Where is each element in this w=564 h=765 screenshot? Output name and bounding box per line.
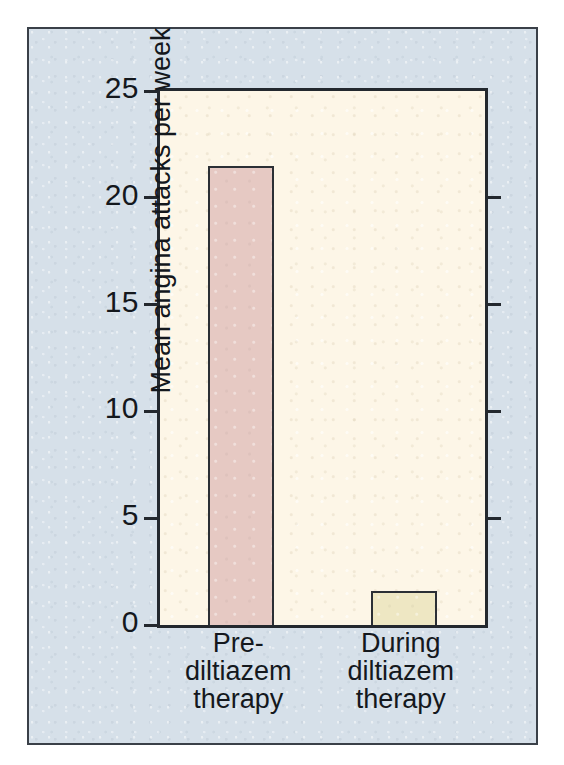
y-axis-tick-right-10 [488,410,501,413]
bar-texture [373,593,435,625]
y-tick-label-15: 15 [105,285,139,319]
bar-0 [208,166,274,625]
plot-area [157,88,488,628]
y-tick-label-10: 10 [105,391,139,425]
x-category-label-1: Duringdiltiazemtherapy [300,629,503,713]
x-category-label-line: diltiazem [300,657,503,685]
bar-texture [210,168,272,625]
figure-panel: Mean angina attacks per week 0510152025 … [27,27,538,745]
x-category-label-line: During [300,629,503,657]
y-axis-tick-labels: 0510152025 [91,88,139,622]
y-axis-tick-left-0 [144,624,157,627]
y-axis-tick-right-5 [488,517,501,520]
y-tick-label-20: 20 [105,178,139,212]
y-tick-label-25: 25 [105,71,139,105]
y-axis-tick-left-5 [144,517,157,520]
y-axis-title: Mean angina attacks per week [146,1,177,421]
y-axis-tick-right-15 [488,303,501,306]
y-axis-tick-right-20 [488,196,501,199]
bar-1 [371,591,437,625]
x-category-label-line: therapy [300,685,503,713]
y-tick-label-5: 5 [122,498,139,532]
